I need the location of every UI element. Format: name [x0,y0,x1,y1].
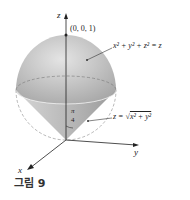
angle-numerator: π [71,108,75,115]
cone-equation-lhs: z = [113,112,126,121]
z-axis-label: z [57,11,61,20]
angle-denominator: 4 [71,117,75,124]
figure-caption: 그림 9 [14,174,45,190]
cone-equation: z = √x² + y² [113,113,151,121]
cone-equation-radicand: x² + y² [130,112,151,121]
sphere-equation: x² + y² + z² = z [113,42,162,50]
y-axis-label: y [134,148,138,157]
point-label: (0, 0, 1) [70,25,95,33]
